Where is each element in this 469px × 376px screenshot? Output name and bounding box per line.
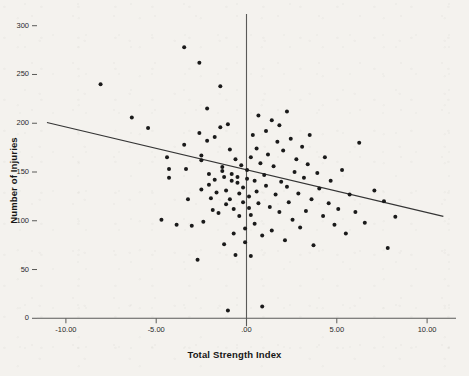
data-point [213,135,217,139]
data-point [228,197,232,201]
data-point [275,140,279,144]
data-point [300,145,304,149]
data-point [255,190,259,194]
data-point [241,200,245,204]
x-tick-label: .00 [227,325,267,334]
data-point [332,223,336,227]
data-point [243,240,247,244]
data-point [306,162,310,166]
data-point [289,137,293,141]
y-axis-title: Number of Injuries [8,111,19,251]
data-point [285,185,289,189]
data-point [298,226,302,230]
data-point [270,118,274,122]
data-point [336,207,340,211]
data-point [258,161,262,165]
data-point [232,231,236,235]
data-point [146,126,150,130]
data-point [190,224,194,228]
data-point [245,177,249,181]
data-point [266,152,270,156]
data-point [260,233,264,237]
data-point [197,131,201,135]
data-point [224,189,228,193]
data-point [315,171,319,175]
data-point [222,242,226,246]
data-point [281,149,285,153]
data-point [249,213,253,217]
data-point [217,211,221,215]
data-point [277,210,281,214]
x-tick-label: -5.00 [136,325,176,334]
data-point [293,170,297,174]
tick-marks [32,26,427,324]
data-point [304,209,308,213]
data-point [182,45,186,49]
data-point [255,147,259,151]
data-point [207,183,211,187]
data-point [213,178,217,182]
data-point [211,208,215,212]
data-point [199,158,203,162]
data-point [323,155,327,159]
data-point [247,206,251,210]
data-point [175,223,179,227]
data-point [277,123,281,127]
data-point-layer [99,45,398,312]
data-point [285,110,289,114]
data-point [237,191,241,195]
data-point [253,179,257,183]
data-point [233,157,237,161]
data-point [182,143,186,147]
data-point [218,84,222,88]
data-point [222,175,226,179]
data-point [294,157,298,161]
data-point [308,133,312,137]
data-point [226,122,230,126]
data-point [291,218,295,222]
data-point [207,172,211,176]
data-point [279,180,283,184]
data-point [167,176,171,180]
x-tick-label: 5.00 [317,325,357,334]
data-point [199,188,203,192]
data-point [196,258,200,262]
data-point [312,243,316,247]
data-point [327,201,331,205]
data-point [235,181,239,185]
data-point [317,187,321,191]
data-point [226,308,230,312]
data-point [167,167,171,171]
y-tick-label: 0 [0,313,29,322]
data-point [245,168,249,172]
data-point [215,190,219,194]
data-point [247,194,251,198]
data-point [209,196,213,200]
scatterplot-figure: -10.00-5.00.005.0010.0005010015020025030… [0,0,469,376]
data-point [159,218,163,222]
data-point [274,192,278,196]
x-tick-label: 10.00 [407,325,447,334]
data-point [232,207,236,211]
data-point [99,82,103,86]
data-point [270,229,274,233]
data-point [239,163,243,167]
data-point [220,169,224,173]
data-point [262,173,266,177]
data-point [224,202,228,206]
data-point [283,238,287,242]
data-point [249,254,253,258]
data-point [230,179,234,183]
data-point [382,199,386,203]
plot-canvas [0,0,469,376]
data-point [260,305,264,309]
data-point [233,253,237,257]
data-point [386,246,390,250]
data-point [220,165,224,169]
data-point [296,191,300,195]
x-tick-label: -10.00 [46,325,86,334]
data-point [287,200,291,204]
data-point [264,184,268,188]
data-point [256,201,260,205]
data-point [218,125,222,129]
